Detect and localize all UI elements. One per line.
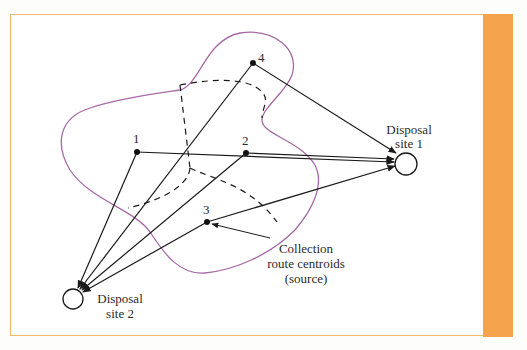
source-points (134, 60, 256, 225)
site2-label-line2: site 2 (106, 306, 134, 321)
source-point-3 (204, 219, 210, 225)
site2-label-line1: Disposal (97, 291, 143, 306)
annotation-line1: Collection (279, 241, 334, 256)
source-label-2: 2 (242, 133, 249, 148)
source-label-1: 1 (133, 131, 140, 146)
edges-to-site1 (137, 63, 396, 222)
site1-label-line1: Disposal (386, 122, 432, 137)
source-point-2 (243, 150, 249, 156)
source-point-1 (134, 149, 140, 155)
district-dividers (128, 80, 277, 222)
annotation-line2: route centroids (267, 256, 345, 271)
edges-to-site2 (78, 63, 253, 292)
annotation-pointer (212, 224, 270, 238)
source-label-4: 4 (258, 50, 265, 65)
disposal-site-2-marker (63, 289, 83, 309)
route-diagram: 1 2 3 4 Disposal site 1 Disposal site 2 … (0, 0, 527, 350)
source-label-3: 3 (203, 202, 210, 217)
disposal-site-1-marker (395, 153, 417, 175)
annotation-line3: (source) (285, 271, 328, 286)
site1-label-line2: site 1 (395, 136, 423, 151)
source-point-4 (250, 60, 256, 66)
